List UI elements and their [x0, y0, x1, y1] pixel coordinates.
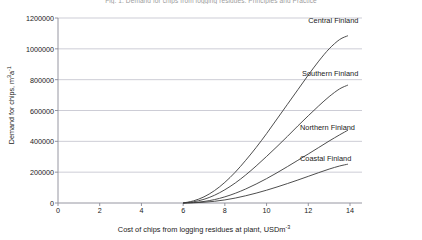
series-line: [183, 36, 348, 203]
series-label-central-finland: Central Finland: [308, 16, 358, 25]
x-axis-title-sup: -3: [285, 224, 290, 230]
y-axis-tick-label: 400000: [2, 137, 54, 146]
series-label-southern-finland: Southern Finland: [302, 69, 358, 78]
y-axis-tick-label: 600000: [2, 106, 54, 115]
x-axis-tick-label: 6: [181, 206, 185, 215]
x-axis-title: Cost of chips from logging residues at p…: [58, 224, 350, 234]
y-axis-tick-label: 200000: [2, 168, 54, 177]
chart-figure: Fig. 1. Demand for chips from logging re…: [0, 0, 422, 240]
x-axis-tick-label: 0: [56, 206, 60, 215]
x-axis-tick-label: 12: [304, 206, 312, 215]
x-axis-tick-label: 10: [263, 206, 271, 215]
series-label-coastal-finland: Coastal Finland: [300, 154, 351, 163]
y-axis-tick-label: 800000: [2, 75, 54, 84]
series-label-northern-finland: Northern Finland: [300, 123, 355, 132]
y-axis-tick-labels: 020000040000060000080000010000001200000: [0, 0, 54, 240]
x-axis-tick-label: 14: [346, 206, 354, 215]
x-axis-title-main: Cost of chips from logging residues at p…: [118, 225, 286, 234]
x-axis-tick-label: 4: [139, 206, 143, 215]
y-axis-tick-label: 1000000: [2, 44, 54, 53]
x-axis-tick-label: 8: [223, 206, 227, 215]
x-axis-tick-label: 2: [98, 206, 102, 215]
plot-area: [0, 0, 422, 240]
y-axis-tick-label: 0: [2, 199, 54, 208]
y-axis-tick-label: 1200000: [2, 14, 54, 23]
series-line: [183, 164, 348, 203]
chart-title: Fig. 1. Demand for chips from logging re…: [0, 0, 422, 4]
series-line: [183, 85, 348, 203]
